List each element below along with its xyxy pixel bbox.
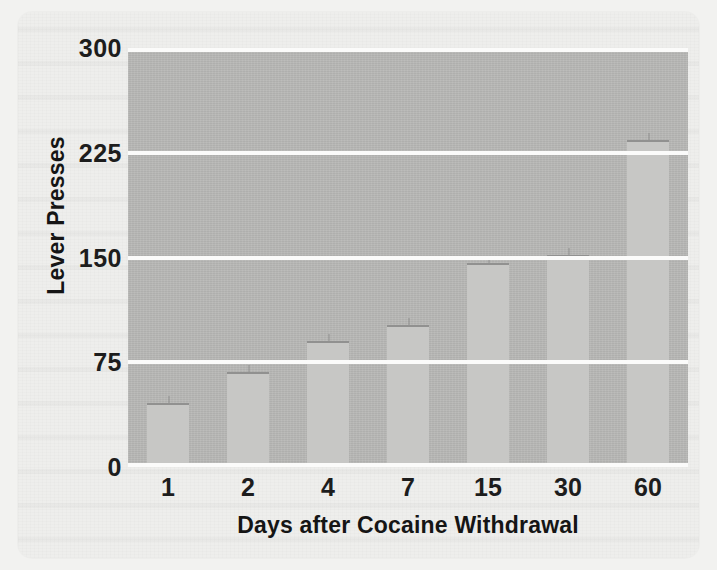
y-tick-label-225: 225: [79, 141, 122, 166]
bar-7: [387, 325, 429, 467]
y-tick-label-0: 0: [108, 455, 122, 480]
y-axis-title: Lever Presses: [43, 116, 70, 316]
x-tick-label-1: 1: [161, 475, 175, 500]
y-tick-label-300: 300: [79, 36, 122, 61]
bar-1: [147, 403, 189, 467]
bar-series: [128, 48, 688, 467]
y-tick-label-150: 150: [79, 246, 122, 271]
x-tick-label-7: 7: [401, 475, 415, 500]
error-bar-whisker: [568, 248, 570, 255]
x-tick-label-30: 30: [554, 475, 582, 500]
error-bar-whisker: [648, 133, 650, 140]
bar-top-cap: [467, 263, 509, 265]
bar-60: [627, 140, 669, 467]
y-tick-label-75: 75: [93, 350, 122, 375]
scanned-page: 075150225300 1247153060 Days after Cocai…: [18, 12, 699, 558]
error-bar-whisker: [248, 365, 250, 372]
x-tick-label-60: 60: [634, 475, 662, 500]
figure-root: 075150225300 1247153060 Days after Cocai…: [0, 0, 717, 570]
x-axis-tick-labels: 1247153060: [128, 475, 688, 509]
error-bar-whisker: [168, 396, 170, 403]
x-tick-label-2: 2: [241, 475, 255, 500]
x-tick-label-15: 15: [474, 475, 502, 500]
bar-15: [467, 263, 509, 467]
bar-4: [307, 341, 349, 467]
bar-top-cap: [627, 140, 669, 142]
bar-2: [227, 372, 269, 467]
x-axis-title: Days after Cocaine Withdrawal: [128, 512, 688, 539]
error-bar-whisker: [488, 256, 490, 263]
error-bar-whisker: [408, 318, 410, 325]
error-bar-whisker: [328, 334, 330, 341]
plot-area: [128, 48, 688, 467]
bar-top-cap: [307, 341, 349, 343]
x-tick-label-4: 4: [321, 475, 335, 500]
bar-top-cap: [227, 372, 269, 374]
bar-top-cap: [387, 325, 429, 327]
bar-30: [547, 255, 589, 467]
bar-top-cap: [147, 403, 189, 405]
bar-top-cap: [547, 255, 589, 257]
